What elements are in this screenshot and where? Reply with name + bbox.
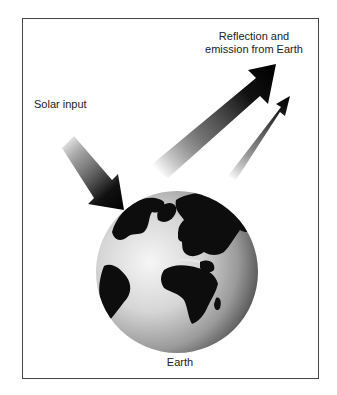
solar-input-label: Solar input [34,98,87,111]
reflection-label-line1: Reflection and [190,30,318,43]
earth-label: Earth [140,356,220,369]
reflection-arrow [150,64,276,178]
reflection-label-line2: emission from Earth [190,43,318,56]
solar-input-arrow [62,136,124,210]
reflection-emission-label: Reflection and emission from Earth [190,30,318,56]
earth-globe [96,191,258,353]
diagram-artwork [0,0,337,395]
